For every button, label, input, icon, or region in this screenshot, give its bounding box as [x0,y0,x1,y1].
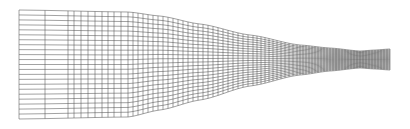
mesh-horizontal-lines [19,10,390,119]
mesh-diagram: Structured computational mesh of a conve… [0,0,410,129]
mesh-row-line [19,66,390,109]
mesh-row-line [19,15,390,52]
mesh-row-line [19,25,390,53]
mesh-grid [0,0,410,129]
